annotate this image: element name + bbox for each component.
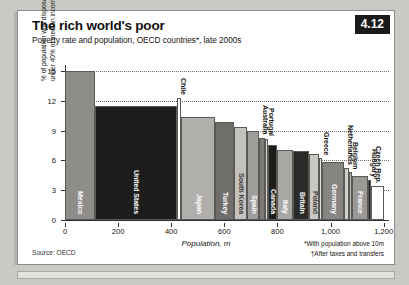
bar-label: Spain (250, 195, 257, 214)
page-subtitle: Poverty rate and population, OECD countr… (32, 35, 241, 45)
bar-label: Turkey (221, 192, 228, 214)
bar-label: Belgium (351, 142, 358, 169)
bar-spain[interactable]: Spain (247, 131, 259, 220)
bar-czech-rep[interactable]: Czech Rep. (371, 186, 384, 220)
y-tick-label-9: 9 (18, 127, 56, 136)
x-tick-label-0: 0 (63, 227, 67, 236)
bar-united-states[interactable]: United States (95, 106, 177, 220)
gridline-15 (65, 71, 389, 72)
source-note: Source: OECD (32, 249, 76, 256)
bar-japan[interactable]: Japan (181, 117, 215, 220)
x-tick-label-800: 800 (271, 227, 284, 236)
y-tick-label-3: 3 (18, 186, 56, 195)
footnote-taxes: †After taxes and transfers (304, 249, 384, 258)
y-tick-label-12: 12 (18, 97, 56, 106)
bar-turkey[interactable]: Turkey (215, 122, 234, 220)
gridline-12 (65, 101, 389, 102)
bar-label: Chile (179, 78, 186, 95)
bar-label: South Korea (237, 173, 244, 214)
bar-label: United States (132, 170, 139, 214)
bar-label: France (356, 191, 363, 214)
x-axis-tick-labels: 02004006008001,0001,200 (65, 223, 389, 235)
y-tick-0 (61, 220, 65, 221)
bar-label: Japan (194, 194, 201, 214)
bar-germany[interactable]: Germany (322, 162, 344, 220)
y-tick-label-6: 6 (18, 156, 56, 165)
bar-label: Poland (311, 191, 318, 214)
x-tick-label-1200: 1,200 (374, 227, 393, 236)
bar-label: Italy (281, 200, 288, 214)
bar-south-korea[interactable]: South Korea (234, 127, 247, 220)
page-bottom-strip (17, 271, 395, 279)
footnote-population: *With population above 10m (304, 239, 384, 248)
bar-mexico[interactable]: Mexico (65, 71, 95, 220)
plot-area: MexicoUnited StatesChileJapanTurkeySouth… (65, 65, 389, 220)
x-tick-label-600: 600 (218, 227, 231, 236)
x-tick-label-200: 200 (112, 227, 125, 236)
bar-britain[interactable]: Britain (293, 151, 309, 220)
footnotes: *With population above 10m †After taxes … (304, 239, 384, 258)
chart-card: The rich world's poor Poverty rate and p… (17, 10, 395, 265)
bar-label: Portugal (267, 108, 274, 136)
y-tick-label-0: 0 (18, 216, 56, 225)
bar-label: Czech Rep. (374, 146, 381, 183)
x-tick-label-1000: 1,000 (321, 227, 340, 236)
page-background: The rich world's poor Poverty rate and p… (0, 0, 409, 285)
bar-italy[interactable]: Italy (277, 150, 293, 220)
chart-number-badge: 4.12 (355, 15, 390, 34)
bar-poland[interactable]: Poland (309, 154, 319, 220)
x-axis-line (65, 220, 389, 221)
bar-label: Mexico (76, 191, 83, 214)
x-tick-label-400: 400 (165, 227, 178, 236)
bar-label: Greece (321, 132, 328, 155)
bar-label: Britain (298, 192, 305, 214)
bar-canada[interactable]: Canada (268, 145, 277, 220)
x-axis-title-text: Population, m (182, 239, 231, 248)
bar-label: Canada (269, 189, 276, 214)
bar-label: Germany (330, 184, 337, 214)
bar-france[interactable]: France (352, 176, 369, 220)
y-tick-label-15: 15 (18, 67, 56, 76)
